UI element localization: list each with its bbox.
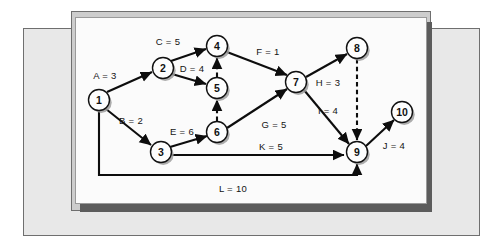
node-label-8: 8 [354, 42, 360, 54]
edge-label-d: D = 4 [180, 63, 204, 74]
edge-label-k: K = 5 [259, 141, 283, 152]
node-6[interactable]: 6 [207, 122, 230, 145]
edge-label-g: G = 5 [262, 119, 287, 130]
node-label-3: 3 [158, 146, 164, 158]
edge-label-a: A = 3 [93, 70, 116, 81]
node-5[interactable]: 5 [207, 78, 230, 101]
node-label-10: 10 [396, 106, 408, 118]
edge-i [304, 90, 349, 144]
node-label-9: 9 [354, 146, 360, 158]
edge-d [172, 74, 206, 84]
node-7[interactable]: 7 [286, 72, 309, 95]
node-label-5: 5 [214, 82, 220, 94]
edge-label-h: H = 3 [316, 77, 340, 88]
edge-label-e: E = 6 [170, 126, 194, 137]
edge-c [171, 49, 206, 61]
node-label-4: 4 [214, 40, 220, 52]
node-layer: 12345678910 [89, 36, 415, 165]
node-label-6: 6 [214, 126, 220, 138]
node-10[interactable]: 10 [392, 102, 415, 125]
diagram-canvas: A = 3B = 2C = 5D = 4E = 6F = 1G = 5H = 3… [0, 0, 503, 251]
network-diagram-graph: A = 3B = 2C = 5D = 4E = 6F = 1G = 5H = 3… [0, 0, 503, 251]
node-label-2: 2 [160, 62, 166, 74]
edge-label-b: B = 2 [119, 115, 143, 126]
node-4[interactable]: 4 [207, 36, 230, 59]
edge-label-i: I = 4 [318, 105, 338, 116]
edge-label-f: F = 1 [256, 46, 279, 57]
edge-e [170, 136, 207, 147]
edge-h [306, 54, 347, 77]
node-1[interactable]: 1 [89, 90, 112, 113]
node-label-7: 7 [293, 76, 299, 88]
edge-label-j: J = 4 [383, 140, 405, 151]
edge-label-l: L = 10 [219, 183, 247, 194]
node-3[interactable]: 3 [151, 142, 174, 165]
edge-label-c: C = 5 [156, 36, 180, 47]
node-label-1: 1 [96, 94, 102, 106]
node-8[interactable]: 8 [347, 38, 370, 61]
